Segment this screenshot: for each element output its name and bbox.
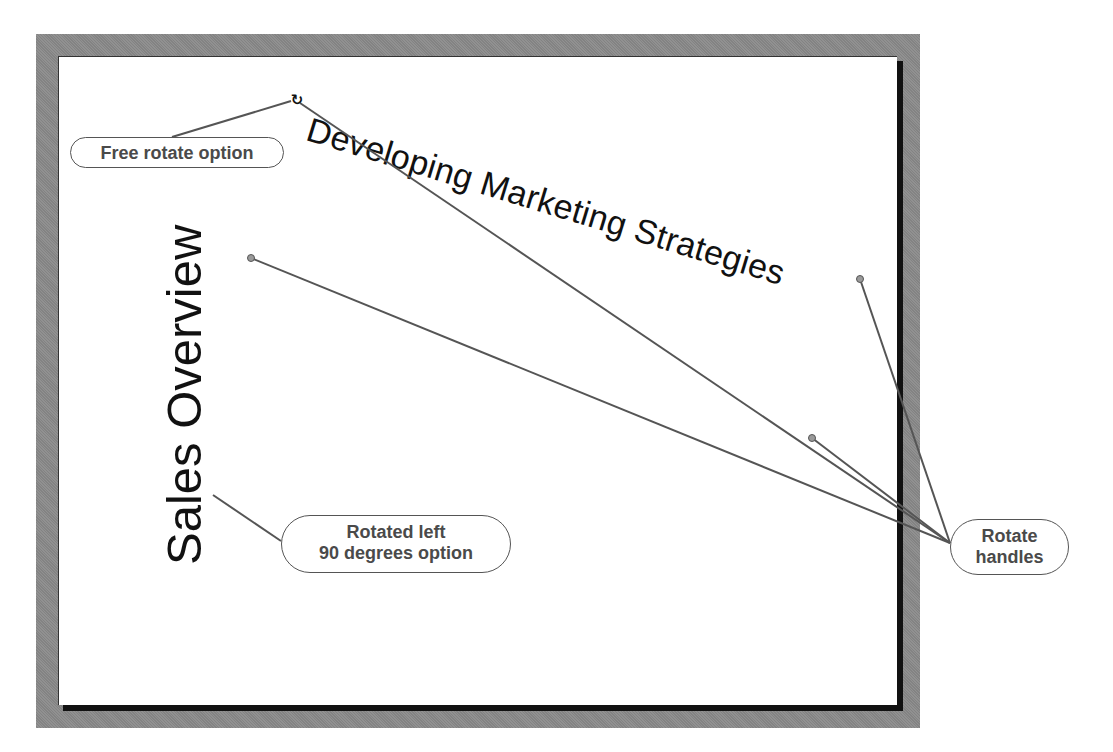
callout-free-rotate: Free rotate option [70,137,284,168]
free-rotate-icon[interactable]: ↻ [289,92,305,108]
rotate-handle-icon[interactable] [808,434,816,442]
callout-free-rotate-label: Free rotate option [71,143,283,164]
rotate-handle-icon[interactable] [247,254,255,262]
rotate-handle-icon[interactable] [856,275,864,283]
callout-rotate-handles-line1: Rotate [951,526,1068,547]
slide-subtitle-rotated-left[interactable]: Sales Overview [160,225,209,565]
callout-rotated-left-line2: 90 degrees option [282,543,510,564]
callout-rotate-handles: Rotate handles [950,519,1069,575]
callout-rotated-left-line1: Rotated left [282,522,510,543]
callout-rotated-left: Rotated left 90 degrees option [281,515,511,573]
callout-rotate-handles-line2: handles [951,547,1068,568]
